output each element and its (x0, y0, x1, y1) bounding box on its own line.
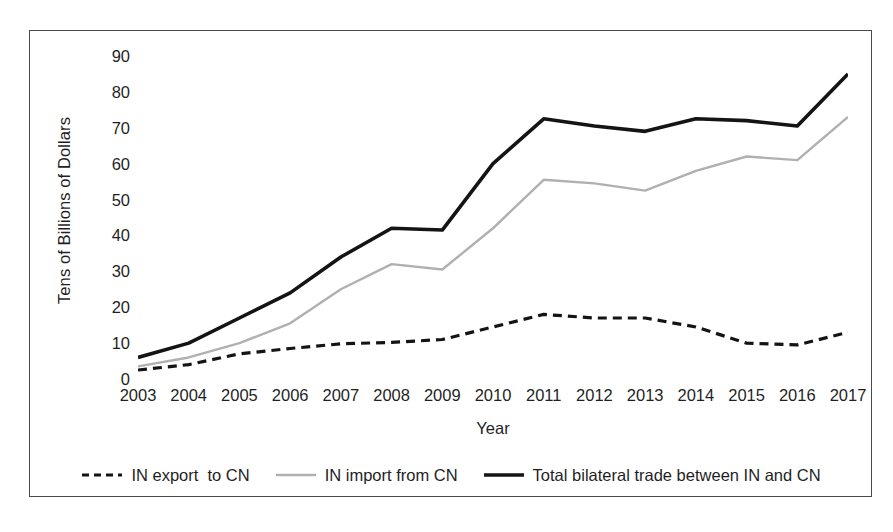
x-tick-label: 2017 (820, 386, 876, 405)
x-tick-label: 2014 (668, 386, 724, 405)
y-tick-label: 0 (68, 371, 130, 387)
y-tick-label: 60 (68, 156, 130, 172)
plot-canvas (138, 56, 848, 379)
chart-plot-region: Tens of Billions of Dollars 010203040506… (30, 31, 873, 451)
legend-item[interactable]: IN export to CN (82, 466, 249, 485)
legend-item[interactable]: Total bilateral trade between IN and CN (484, 466, 821, 485)
legend-label: Total bilateral trade between IN and CN (533, 466, 821, 485)
y-tick-label: 70 (68, 120, 130, 136)
series-lines (138, 56, 848, 379)
y-tick-label: 50 (68, 192, 130, 208)
chart-figure: Tens of Billions of Dollars 010203040506… (29, 30, 872, 497)
gray-line-swatch (276, 469, 316, 481)
legend-label: IN export to CN (131, 466, 249, 485)
y-tick-label: 40 (68, 227, 130, 243)
x-tick-label: 2010 (465, 386, 521, 405)
chart-legend: IN export to CNIN import from CNTotal bi… (30, 455, 873, 495)
x-tick-label: 2003 (110, 386, 166, 405)
black-line-swatch (484, 469, 524, 481)
series-line (138, 117, 848, 366)
dashed-line-swatch (82, 469, 122, 481)
x-tick-label: 2009 (414, 386, 470, 405)
x-tick-label: 2005 (211, 386, 267, 405)
legend-label: IN import from CN (325, 466, 458, 485)
x-axis-tick-labels: 2003200420052006200720082009201020112012… (138, 386, 848, 410)
series-line (138, 74, 848, 358)
x-tick-label: 2012 (566, 386, 622, 405)
x-tick-label: 2013 (617, 386, 673, 405)
x-tick-label: 2004 (161, 386, 217, 405)
x-tick-label: 2016 (769, 386, 825, 405)
x-axis-title: Year (138, 419, 848, 438)
x-tick-label: 2008 (364, 386, 420, 405)
x-tick-label: 2011 (516, 386, 572, 405)
y-tick-label: 20 (68, 299, 130, 315)
y-tick-label: 30 (68, 263, 130, 279)
y-tick-label: 80 (68, 84, 130, 100)
legend-item[interactable]: IN import from CN (276, 466, 458, 485)
y-tick-label: 10 (68, 335, 130, 351)
x-tick-label: 2015 (719, 386, 775, 405)
x-tick-label: 2006 (262, 386, 318, 405)
y-tick-label: 90 (68, 48, 130, 64)
x-tick-label: 2007 (313, 386, 369, 405)
